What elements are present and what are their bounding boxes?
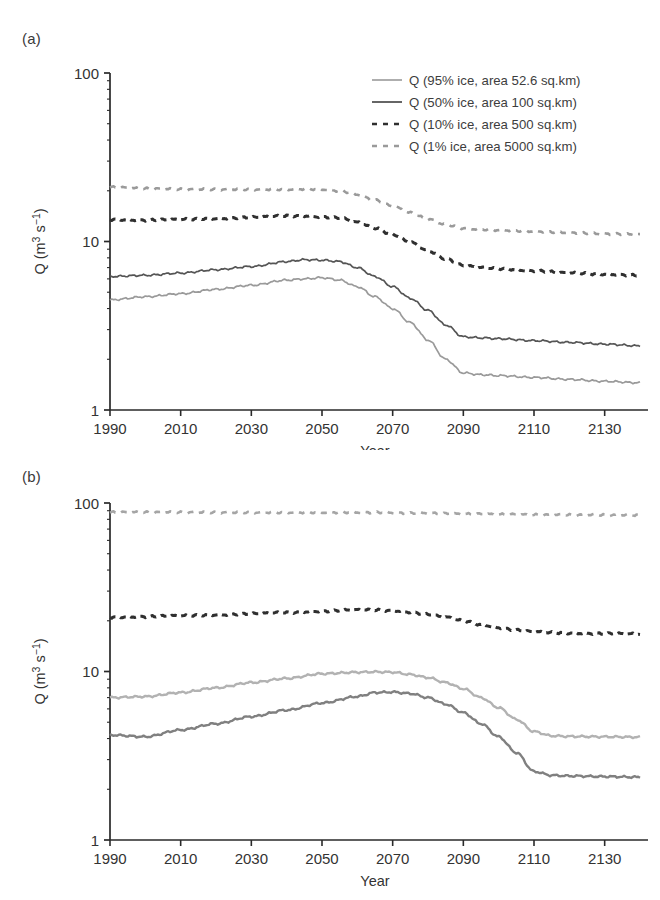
x-tick-label: 2070 bbox=[376, 850, 409, 867]
x-tick-label: 2010 bbox=[164, 850, 197, 867]
chart-panel-b: (b) 110100199020102030205020702090211021… bbox=[0, 450, 660, 900]
series-line bbox=[110, 215, 640, 276]
y-axis-title-text: Q (m3 s−1) bbox=[30, 208, 48, 274]
x-tick-label: 2110 bbox=[518, 850, 550, 867]
y-axis-title: Q (m3 s−1) bbox=[30, 208, 48, 274]
x-axis-title: Year bbox=[360, 443, 389, 450]
series-line bbox=[110, 609, 640, 635]
x-tick-label: 1990 bbox=[93, 420, 126, 437]
x-axis-title: Year bbox=[360, 873, 389, 889]
legend-label: Q (1% ice, area 5000 sq.km) bbox=[409, 139, 577, 154]
panel-a-label: (a) bbox=[22, 30, 41, 47]
legend-label: Q (10% ice, area 500 sq.km) bbox=[409, 117, 577, 132]
x-tick-label: 2050 bbox=[305, 420, 338, 437]
x-tick-label: 2030 bbox=[235, 850, 268, 867]
y-tick-label: 10 bbox=[82, 663, 99, 680]
panel-b-plot: 11010019902010203020502070209021102130Ye… bbox=[0, 450, 660, 900]
series-line bbox=[110, 511, 640, 516]
series-line bbox=[110, 691, 640, 778]
y-tick-label: 1 bbox=[91, 402, 99, 419]
chart-panel-a: (a) 110100199020102030205020702090211021… bbox=[0, 0, 660, 450]
legend-label: Q (50% ice, area 100 sq.km) bbox=[409, 95, 577, 110]
x-tick-label: 2110 bbox=[518, 420, 550, 437]
x-tick-label: 2130 bbox=[588, 850, 621, 867]
x-tick-label: 2050 bbox=[305, 850, 338, 867]
y-tick-label: 100 bbox=[74, 65, 99, 82]
x-tick-label: 2030 bbox=[235, 420, 268, 437]
legend-label: Q (95% ice, area 52.6 sq.km) bbox=[409, 73, 581, 88]
y-axis-title-text: Q (m3 s−1) bbox=[30, 638, 48, 704]
x-tick-label: 2010 bbox=[164, 420, 197, 437]
figure-container: (a) 110100199020102030205020702090211021… bbox=[0, 0, 660, 900]
panel-b-label: (b) bbox=[22, 468, 41, 485]
series-line bbox=[110, 277, 640, 384]
y-tick-label: 10 bbox=[82, 233, 99, 250]
y-axis-title: Q (m3 s−1) bbox=[30, 638, 48, 704]
panel-a-plot: 11010019902010203020502070209021102130Ye… bbox=[0, 0, 660, 450]
x-tick-label: 2130 bbox=[588, 420, 621, 437]
x-tick-label: 2090 bbox=[447, 420, 480, 437]
y-tick-label: 100 bbox=[74, 495, 99, 512]
y-tick-label: 1 bbox=[91, 832, 99, 849]
x-tick-label: 2070 bbox=[376, 420, 409, 437]
x-tick-label: 1990 bbox=[93, 850, 126, 867]
x-tick-label: 2090 bbox=[447, 850, 480, 867]
